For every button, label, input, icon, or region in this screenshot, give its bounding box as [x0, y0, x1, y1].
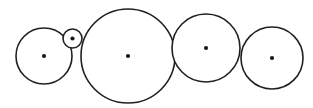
circle-2-center-dot [70, 36, 74, 40]
figure-canvas [0, 0, 313, 108]
circle-4-center-dot [204, 46, 208, 50]
circle-5-center-dot [270, 56, 274, 60]
circle-3-center-dot [126, 54, 130, 58]
circles-group [16, 9, 303, 103]
circles-diagram [0, 0, 313, 108]
circle-1-center-dot [42, 54, 46, 58]
